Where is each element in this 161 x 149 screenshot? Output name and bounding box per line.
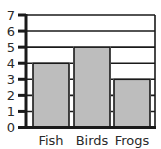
x-category-label: Fish [38, 133, 63, 148]
bar-chart: 01234567 FishBirdsFrogs [0, 0, 161, 149]
bars [32, 46, 151, 127]
y-tick-label: 7 [7, 8, 15, 23]
x-axis-labels: FishBirdsFrogs [38, 133, 149, 148]
y-tick-label: 1 [7, 104, 15, 119]
y-tick-label: 2 [7, 88, 15, 103]
x-category-label: Birds [76, 133, 109, 148]
y-axis-ticks: 01234567 [7, 8, 26, 136]
y-tick-label: 3 [7, 72, 15, 87]
y-tick-label: 0 [7, 120, 15, 135]
bar-fish [33, 63, 69, 127]
x-category-label: Frogs [115, 133, 150, 148]
bar-frogs [114, 79, 150, 127]
bar-birds [74, 47, 110, 127]
y-tick-label: 5 [7, 40, 15, 55]
y-tick-label: 6 [7, 24, 15, 39]
y-tick-label: 4 [7, 56, 15, 71]
